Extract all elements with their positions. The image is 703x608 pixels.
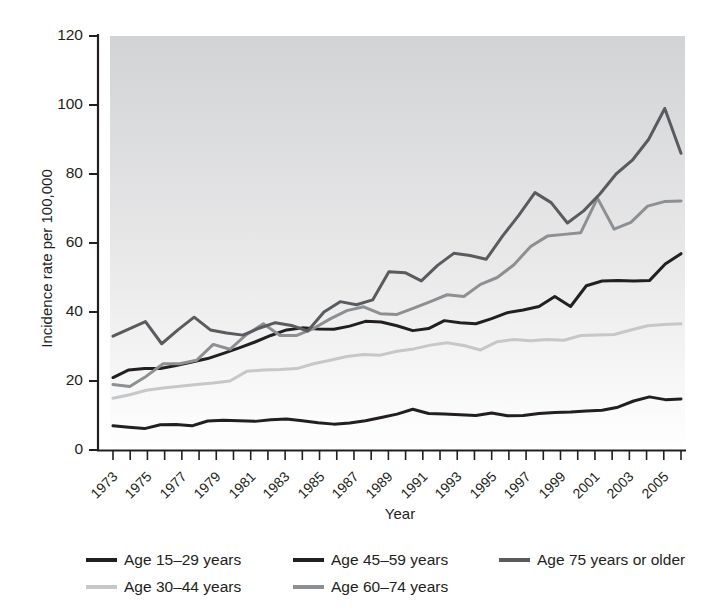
legend-label: Age 30–44 years	[124, 578, 241, 596]
legend-column-1: Age 45–59 yearsAge 60–74 years	[293, 546, 448, 600]
y-tick-label-120: 120	[43, 26, 83, 44]
legend-item[interactable]: Age 45–59 years	[293, 546, 448, 573]
legend-column-2: Age 75 years or older	[499, 546, 685, 573]
legend-item[interactable]: Age 75 years or older	[499, 546, 685, 573]
legend-label: Age 45–59 years	[331, 551, 448, 569]
y-tick-label-60: 60	[43, 233, 83, 251]
y-tick-label-80: 80	[43, 164, 83, 182]
y-tick-label-100: 100	[43, 95, 83, 113]
legend-item[interactable]: Age 15–29 years	[86, 546, 241, 573]
legend-swatch-icon	[293, 585, 324, 589]
legend-label: Age 15–29 years	[124, 551, 241, 569]
legend-item[interactable]: Age 30–44 years	[86, 573, 241, 600]
legend-column-0: Age 15–29 yearsAge 30–44 years	[86, 546, 241, 600]
y-tick-label-0: 0	[43, 440, 83, 458]
plot-background	[110, 36, 685, 450]
legend-swatch-icon	[499, 558, 530, 562]
legend-swatch-icon	[86, 585, 117, 589]
legend-item[interactable]: Age 60–74 years	[293, 573, 448, 600]
legend-swatch-icon	[293, 558, 324, 562]
chart-figure: Incidence rate per 100,000 Year 02040608…	[0, 0, 703, 608]
legend-label: Age 60–74 years	[331, 578, 448, 596]
chart-legend: Age 15–29 yearsAge 30–44 yearsAge 45–59 …	[86, 546, 703, 604]
y-tick-label-40: 40	[43, 302, 83, 320]
legend-swatch-icon	[86, 558, 117, 562]
line-chart-plot	[0, 0, 703, 540]
y-tick-label-20: 20	[43, 371, 83, 389]
legend-label: Age 75 years or older	[537, 551, 685, 569]
